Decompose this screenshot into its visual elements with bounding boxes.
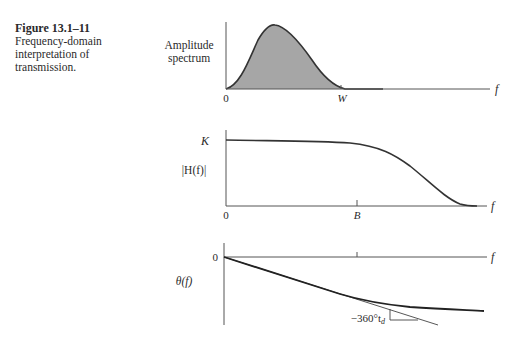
magnitude-response-panel: K |H(f)| 0 B f [182, 130, 496, 221]
amp-ylabel-line2: spectrum [168, 52, 210, 65]
mag-origin-label: 0 [223, 209, 229, 221]
phase-response-panel: 0 θ(f) −360°td f [176, 243, 496, 326]
phase-ylabel: θ(f) [176, 275, 193, 288]
mag-ylabel: |H(f)| [182, 164, 206, 177]
mag-f-label: f [491, 199, 496, 213]
figure-plots: Amplitude spectrum 0 W f K |H(f)| 0 B f … [0, 0, 522, 347]
mag-b-label: B [354, 209, 361, 221]
amplitude-spectrum-panel: Amplitude spectrum 0 W f [164, 22, 500, 104]
amp-ylabel-line1: Amplitude [164, 39, 213, 52]
phase-f-label: f [491, 250, 496, 264]
phase-response-curve [224, 257, 484, 311]
amp-origin-label: 0 [223, 92, 229, 104]
phase-zero-label: 0 [213, 251, 219, 263]
mag-response-curve [226, 140, 477, 206]
slope-label: −360°td [351, 312, 386, 326]
mag-k-label: K [200, 134, 210, 148]
amp-w-label: W [337, 92, 347, 104]
amp-f-label: f [495, 82, 500, 96]
